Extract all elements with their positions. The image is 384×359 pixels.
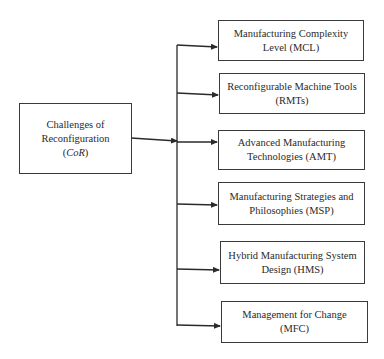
node-hms: Hybrid Manufacturing System Design (HMS) (220, 241, 365, 284)
root-arrow (131, 138, 177, 141)
root-line-3: (CoR) (63, 146, 89, 160)
root-line-1: Challenges of (46, 118, 104, 132)
node-mfc-line-1: Management for Change (242, 308, 346, 322)
root-line-2: Reconfiguration (41, 132, 109, 146)
node-amt-line-2: Technologies (AMT) (247, 150, 336, 164)
node-hms-line-1: Hybrid Manufacturing System (228, 249, 356, 263)
node-mfc-line-2: (MFC) (280, 322, 309, 336)
root-node-challenges-of-reconfiguration: Challenges of Reconfiguration (CoR) (19, 103, 132, 174)
node-msp-line-1: Manufacturing Strategies and (229, 190, 353, 204)
node-mcl-line-2: Level (MCL) (263, 41, 319, 55)
node-rmts-line-2: (RMTs) (275, 94, 308, 108)
node-msp-line-2: Philosophies (MSP) (249, 204, 333, 218)
node-amt-line-1: Advanced Manufacturing (238, 136, 346, 150)
node-mcl-line-1: Manufacturing Complexity (234, 27, 349, 41)
node-rmts-line-1: Reconfigurable Machine Tools (227, 80, 357, 94)
node-mfc: Management for Change (MFC) (221, 301, 368, 343)
node-rmts: Reconfigurable Machine Tools (RMTs) (219, 73, 365, 114)
node-amt: Advanced Manufacturing Technologies (AMT… (218, 130, 365, 170)
node-hms-line-2: Design (HMS) (261, 263, 323, 277)
node-mcl: Manufacturing Complexity Level (MCL) (218, 20, 364, 61)
node-msp: Manufacturing Strategies and Philosophie… (218, 182, 365, 225)
